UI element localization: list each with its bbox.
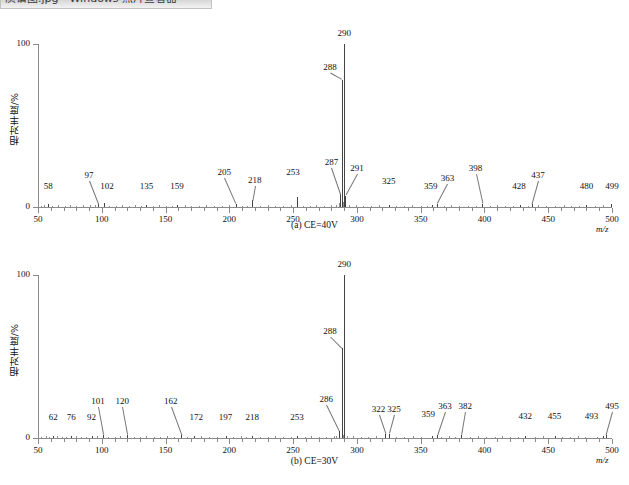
spectrum-peak xyxy=(166,206,167,207)
x-axis-major-tick xyxy=(293,208,294,213)
caption-b: (b) CE=30V xyxy=(0,456,629,466)
spectrum-peak xyxy=(66,437,67,438)
spectrum-peak xyxy=(199,206,200,207)
spectrum-peak xyxy=(513,206,514,207)
x-axis-minor-tick xyxy=(217,208,218,211)
spectrum-peak xyxy=(260,206,261,207)
y-axis-tick-label: 0 xyxy=(6,432,30,442)
spectrum-panel-a: 0100相对丰度/%50100150200250300350400450500m… xyxy=(0,22,629,240)
x-axis-tick-label: 500 xyxy=(597,445,627,455)
x-axis-minor-tick xyxy=(510,439,511,442)
spectrum-peak xyxy=(459,206,460,207)
x-axis-minor-tick xyxy=(382,208,383,211)
spectrum-peak xyxy=(486,437,487,438)
spectrum-peak xyxy=(46,436,47,438)
peak-label: 398 xyxy=(461,163,491,173)
spectrum-peak xyxy=(311,436,312,438)
spectrum-peak xyxy=(546,206,547,207)
spectrum-peak-labeled xyxy=(181,435,182,438)
spectrum-peak xyxy=(62,437,63,438)
spectrum-peak xyxy=(585,437,586,438)
peak-label: 172 xyxy=(181,412,211,422)
x-axis-minor-tick xyxy=(370,208,371,211)
y-axis-title: 相对丰度/% xyxy=(8,324,22,376)
spectrum-peak xyxy=(510,437,511,438)
x-axis-minor-tick xyxy=(76,208,77,211)
spectrum-peak xyxy=(283,437,284,438)
peak-label: 428 xyxy=(504,181,534,191)
x-axis-major-tick xyxy=(421,208,422,213)
spectrum-peak-labeled xyxy=(177,205,178,207)
window-title-text: 质谱图.jpg - Windows 照片查看器 xyxy=(5,0,177,4)
x-axis-major-tick xyxy=(102,439,103,444)
spectrum-peak-labeled xyxy=(342,80,343,207)
peak-leader-line xyxy=(330,73,342,80)
x-axis-minor-tick xyxy=(306,439,307,442)
spectrum-peak xyxy=(331,205,332,207)
spectrum-peak-labeled xyxy=(342,348,343,438)
spectrum-peak xyxy=(368,437,369,438)
spectrum-peak xyxy=(58,205,59,207)
x-axis-minor-tick xyxy=(523,208,524,211)
x-axis-major-tick xyxy=(548,439,549,444)
x-axis-minor-tick xyxy=(127,439,128,442)
x-axis-major-tick xyxy=(38,439,39,444)
x-axis-minor-tick xyxy=(51,439,52,442)
x-axis-minor-tick xyxy=(268,439,269,442)
x-axis-minor-tick xyxy=(382,439,383,442)
x-axis-minor-tick xyxy=(497,439,498,442)
x-axis-minor-tick xyxy=(446,439,447,442)
spectrum-peak xyxy=(90,205,91,207)
spectrum-plot-a: 0100相对丰度/%50100150200250300350400450500m… xyxy=(0,22,629,240)
x-axis-minor-tick xyxy=(574,439,575,442)
x-axis-minor-tick xyxy=(115,208,116,211)
x-axis-major-tick xyxy=(102,208,103,213)
spectrum-peak xyxy=(319,437,320,438)
peak-label: 97 xyxy=(74,170,104,180)
spectrum-peak-labeled xyxy=(432,205,433,207)
spectrum-peak xyxy=(76,206,77,207)
peak-label: 290 xyxy=(329,259,359,269)
spectrum-peak xyxy=(571,206,572,207)
x-axis-minor-tick xyxy=(497,208,498,211)
x-axis-major-tick xyxy=(357,439,358,444)
spectrum-peak xyxy=(242,206,243,207)
x-axis-tick-label: 50 xyxy=(23,445,53,455)
peak-label: 382 xyxy=(450,401,480,411)
spectrum-peak xyxy=(116,206,117,207)
spectrum-peak xyxy=(324,206,325,207)
x-axis-minor-tick xyxy=(344,439,345,442)
spectrum-peak xyxy=(562,437,563,438)
window-title-bar[interactable]: 质谱图.jpg - Windows 照片查看器 xyxy=(0,0,212,9)
spectrum-peak xyxy=(120,436,121,438)
peak-label: 120 xyxy=(107,396,137,406)
x-axis-minor-tick xyxy=(574,208,575,211)
spectrum-peak xyxy=(555,206,556,207)
x-axis-minor-tick xyxy=(255,439,256,442)
spectrum-peak xyxy=(95,205,96,207)
peak-label: 325 xyxy=(379,404,409,414)
peak-leader-line xyxy=(606,412,613,435)
spectrum-panel-b: 0100相对丰度/%50100150200250300350400450500m… xyxy=(0,248,629,480)
spectrum-peak xyxy=(578,436,579,438)
x-axis-minor-tick xyxy=(115,439,116,442)
spectrum-peak xyxy=(564,205,565,207)
x-axis-minor-tick xyxy=(217,439,218,442)
spectrum-peak xyxy=(303,206,304,207)
spectrum-peak xyxy=(376,436,377,438)
spectrum-peak xyxy=(140,437,141,438)
peak-label: 325 xyxy=(374,176,404,186)
spectrum-peak-labeled xyxy=(146,205,147,207)
x-axis-tick-label: 200 xyxy=(214,445,244,455)
peak-leader-line xyxy=(252,186,256,201)
x-axis-minor-tick xyxy=(191,439,192,442)
spectrum-peak xyxy=(595,206,596,207)
y-axis-tick-label: 100 xyxy=(6,38,30,48)
x-axis-minor-tick xyxy=(408,208,409,211)
x-axis-minor-tick xyxy=(242,208,243,211)
spectrum-peak xyxy=(291,437,292,438)
spectrum-peak-labeled xyxy=(520,205,521,207)
spectrum-peak xyxy=(427,206,428,207)
spectrum-peak xyxy=(497,205,498,207)
spectrum-peak-labeled xyxy=(385,434,386,438)
